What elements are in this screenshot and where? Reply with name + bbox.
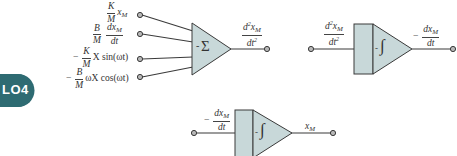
summer-input-4-label: − BM ωX cos(ωt) bbox=[66, 68, 129, 90]
integrator-1-gain-block bbox=[354, 24, 373, 74]
integrator-2-output-label: xM bbox=[305, 122, 315, 133]
integrator-2-input-label: − dxMdt bbox=[204, 109, 230, 133]
terminal-icon bbox=[264, 46, 269, 51]
summer-output-label: d2xM dt2 bbox=[242, 21, 262, 49]
terminal-icon bbox=[137, 74, 142, 79]
summer-input-1-label: KM xM bbox=[107, 2, 127, 24]
integral-icon: ∫ bbox=[380, 37, 385, 54]
lo4-badge-label: LO4 bbox=[2, 82, 29, 97]
summer-input-3-label: − KM X sin(ωt) bbox=[73, 47, 128, 69]
terminal-icon bbox=[137, 31, 142, 36]
terminal-icon bbox=[308, 46, 313, 51]
integrator-1-block bbox=[373, 24, 412, 74]
sigma-icon: Σ bbox=[201, 39, 210, 54]
summer-sign: - bbox=[196, 41, 199, 51]
integrator-2-block bbox=[253, 110, 292, 156]
terminal-icon bbox=[137, 56, 142, 61]
integrator-1-output-label: − dxMdt bbox=[413, 25, 439, 49]
integral-icon: ∫ bbox=[260, 121, 265, 138]
terminal-icon bbox=[450, 46, 455, 51]
integrator-1-sign: - bbox=[375, 44, 378, 53]
terminal-icon bbox=[137, 12, 142, 17]
terminal-icon bbox=[330, 130, 335, 135]
integrator-2-gain-block bbox=[235, 110, 253, 156]
integrator-1-input-label: d2xM dt2 bbox=[324, 20, 344, 48]
integrator-2-sign: - bbox=[255, 128, 258, 137]
summer-input-2-label: BM dxMdt bbox=[93, 23, 123, 47]
terminal-icon bbox=[191, 130, 196, 135]
